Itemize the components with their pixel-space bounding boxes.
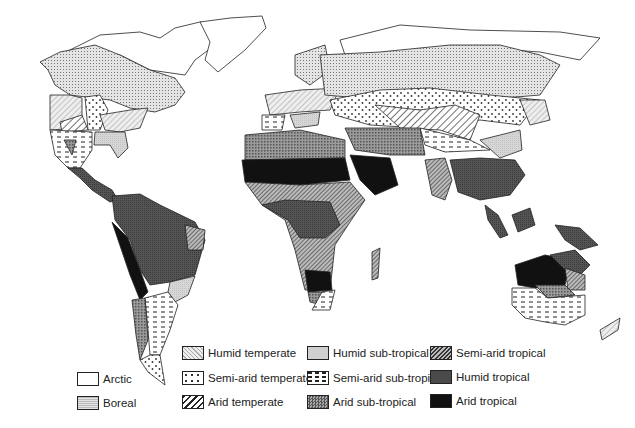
legend-arid-tropical: Arid tropical (430, 393, 517, 409)
central-america (68, 168, 118, 202)
greenland (200, 16, 266, 72)
new-guinea (555, 225, 598, 250)
semiarid-tropical-swatch (430, 346, 452, 360)
legend-label: Arid tropical (456, 395, 517, 407)
india-semitrop (425, 158, 452, 200)
legend-arctic: Arctic (77, 371, 132, 387)
legend-arid-temperate: Arid temperate (182, 394, 283, 410)
arid-tropical-swatch (430, 394, 452, 408)
argentina (145, 292, 178, 355)
middle-east-aridsub (345, 128, 425, 155)
kalahari (305, 270, 332, 292)
legend-label: Humid tropical (456, 371, 530, 383)
southeast-asia (450, 158, 525, 200)
madagascar (372, 248, 380, 280)
legend-label: Humid sub-tropical (333, 347, 429, 359)
legend-semiarid-subtropical: Semi-arid sub-tropical (307, 370, 445, 386)
brazil-northeast (185, 225, 205, 250)
legend-boreal: Boreal (77, 395, 136, 411)
humid-temperate-swatch (182, 346, 204, 360)
legend-humid-tropical: Humid tropical (430, 369, 530, 385)
legend-label: Semi-arid sub-tropical (333, 372, 445, 384)
central-africa (262, 200, 340, 238)
chile (132, 298, 148, 360)
legend-label: Arid temperate (208, 396, 283, 408)
legend-label: Semi-arid temperate (208, 372, 312, 384)
legend-label: Semi-arid tropical (456, 347, 545, 359)
new-zealand (600, 318, 620, 340)
usa-southeast (94, 132, 128, 158)
humid-subtropical-swatch (307, 346, 329, 360)
patagonia (140, 355, 165, 385)
arabia (350, 155, 398, 195)
humid-tropical-swatch (430, 370, 452, 384)
legend-label: Boreal (103, 397, 136, 409)
semiarid-subtropical-swatch (307, 371, 329, 385)
china-humid-subtropical (480, 130, 522, 158)
borneo (512, 208, 535, 232)
legend-arid-subtropical: Arid sub-tropical (307, 394, 416, 410)
sahara (242, 158, 350, 185)
legend-label: Humid temperate (208, 347, 296, 359)
arid-temperate-swatch (182, 395, 204, 409)
mediterranean-humsub (290, 112, 320, 128)
legend-semiarid-tropical: Semi-arid tropical (430, 345, 545, 361)
sumatra (485, 205, 508, 238)
north-africa-aridsub (245, 130, 345, 160)
world-climate-map (0, 0, 635, 428)
boreal-swatch (77, 396, 99, 410)
legend-label: Arctic (103, 373, 132, 385)
legend-humid-subtropical: Humid sub-tropical (307, 345, 429, 361)
arid-subtropical-swatch (307, 395, 329, 409)
legend-label: Arid sub-tropical (333, 396, 416, 408)
iberia (262, 115, 285, 130)
legend-humid-temperate: Humid temperate (182, 345, 296, 361)
semiarid-temperate-swatch (182, 371, 204, 385)
legend-semiarid-temperate: Semi-arid temperate (182, 370, 312, 386)
arctic-swatch (77, 372, 99, 386)
